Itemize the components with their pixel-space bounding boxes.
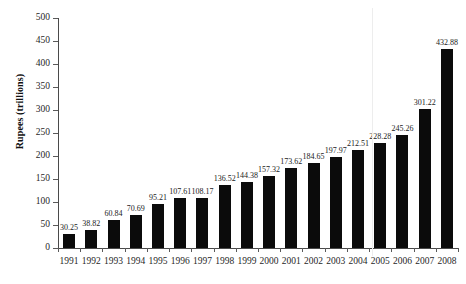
x-tick-mark xyxy=(169,248,170,252)
y-tick-mark xyxy=(53,64,58,65)
y-tick-mark xyxy=(53,110,58,111)
y-tick-label: 200 xyxy=(22,151,50,161)
x-tick-mark xyxy=(58,248,59,252)
y-tick-mark xyxy=(53,156,58,157)
bar xyxy=(330,157,342,248)
bar xyxy=(285,168,297,248)
y-axis-line xyxy=(58,18,59,248)
scan-artifact-line xyxy=(372,8,373,256)
x-tick-mark xyxy=(391,248,392,252)
y-tick-label: 50 xyxy=(22,220,50,230)
y-tick-mark xyxy=(53,87,58,88)
x-tick-mark xyxy=(325,248,326,252)
y-tick-label: 0 xyxy=(22,243,50,253)
y-tick-label: 400 xyxy=(22,59,50,69)
x-tick-mark xyxy=(125,248,126,252)
bar xyxy=(152,204,164,248)
bar xyxy=(196,198,208,248)
y-tick-label: 450 xyxy=(22,36,50,46)
y-tick-mark xyxy=(53,18,58,19)
y-tick-mark xyxy=(53,179,58,180)
x-tick-mark xyxy=(236,248,237,252)
bar xyxy=(108,220,120,248)
bar xyxy=(130,215,142,248)
y-tick-label: 500 xyxy=(22,13,50,23)
scan-artifact-smudge xyxy=(0,272,466,284)
x-tick-mark xyxy=(214,248,215,252)
x-tick-mark xyxy=(102,248,103,252)
bar xyxy=(374,143,386,248)
x-tick-mark xyxy=(458,248,459,252)
y-tick-label: 250 xyxy=(22,128,50,138)
x-tick-mark xyxy=(191,248,192,252)
bar xyxy=(219,185,231,248)
x-tick-mark xyxy=(258,248,259,252)
x-tick-mark xyxy=(80,248,81,252)
bar xyxy=(85,230,97,248)
bar-value-label: 432.88 xyxy=(425,39,466,47)
y-tick-label: 150 xyxy=(22,174,50,184)
x-tick-mark xyxy=(347,248,348,252)
y-tick-label: 100 xyxy=(22,197,50,207)
y-tick-label: 300 xyxy=(22,105,50,115)
bar xyxy=(174,198,186,248)
y-tick-label: 350 xyxy=(22,82,50,92)
x-tick-mark xyxy=(369,248,370,252)
y-tick-mark xyxy=(53,41,58,42)
x-tick-mark xyxy=(302,248,303,252)
y-tick-mark xyxy=(53,133,58,134)
bar-chart: Rupees (trillions) 050100150200250300350… xyxy=(0,0,466,284)
x-tick-mark xyxy=(436,248,437,252)
x-tick-mark xyxy=(280,248,281,252)
bar xyxy=(396,135,408,248)
x-tick-mark xyxy=(147,248,148,252)
bar xyxy=(441,49,453,248)
y-tick-mark xyxy=(53,202,58,203)
x-tick-label: 2008 xyxy=(432,256,462,267)
bar xyxy=(352,150,364,248)
bar xyxy=(241,182,253,248)
bar xyxy=(308,163,320,248)
bar xyxy=(419,109,431,248)
bar xyxy=(263,176,275,248)
x-tick-mark xyxy=(414,248,415,252)
bar xyxy=(63,234,75,248)
